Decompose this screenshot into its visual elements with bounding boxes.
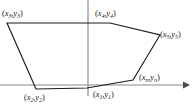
vertex-label-x2y2: (x2,y2) (24, 93, 45, 102)
vertex-label-x5y5: (x5,y5) (160, 30, 181, 39)
vertex-label-xnyn: (xn,yn) (139, 73, 160, 82)
figure-canvas: (x3,y3) (x4,y4) (x5,y5) (xn,yn) (x1,y1) … (0, 0, 192, 112)
polygon-shape (7, 23, 160, 89)
vertex-label-x4y4: (x4,y4) (95, 9, 116, 18)
x-axis-arrowhead (183, 82, 190, 89)
vertex-label-x3y3: (x3,y3) (2, 9, 23, 18)
vertex-label-x1y1: (x1,y1) (93, 90, 114, 99)
